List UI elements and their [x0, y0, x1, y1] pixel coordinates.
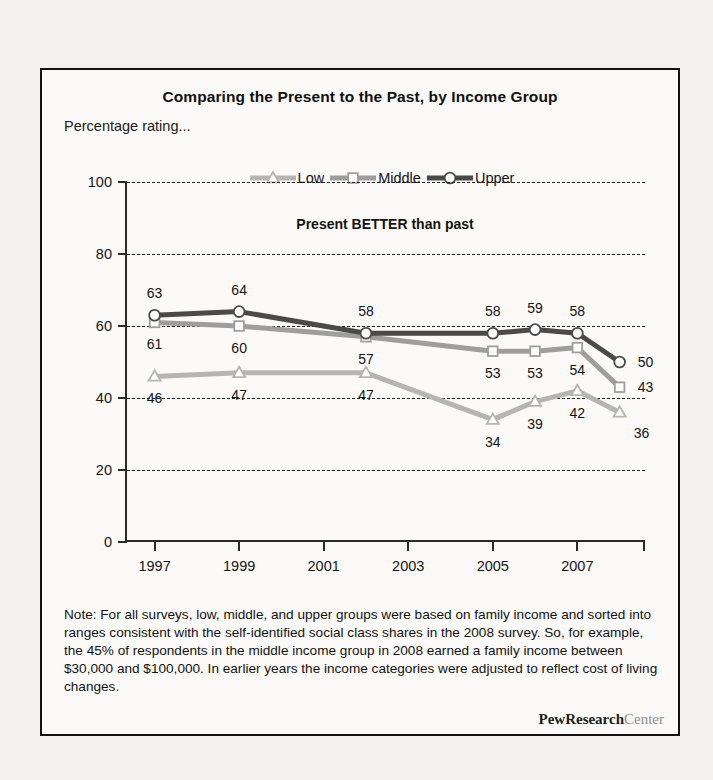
series-layer	[125, 182, 645, 542]
data-point-marker	[234, 321, 244, 331]
y-axis-label: 20	[96, 462, 112, 478]
x-axis-label: 1999	[223, 558, 255, 574]
chart-note: Note: For all surveys, low, middle, and …	[64, 606, 660, 696]
data-point-label: 61	[147, 336, 163, 352]
data-point-marker	[573, 343, 583, 353]
data-point-label: 57	[358, 351, 374, 367]
data-point-marker	[530, 324, 541, 335]
x-axis-tick	[238, 542, 240, 551]
data-point-label: 64	[231, 282, 247, 298]
x-axis-label: 2003	[392, 558, 424, 574]
brand-light: Center	[624, 711, 664, 727]
data-point-marker	[614, 357, 625, 368]
data-point-marker	[267, 172, 279, 182]
x-axis-label: 1997	[138, 558, 170, 574]
data-point-label: 36	[634, 425, 650, 441]
x-axis-tick	[323, 542, 325, 551]
y-axis-label: 40	[96, 390, 112, 406]
data-point-label: 54	[570, 362, 586, 378]
data-point-label: 39	[527, 416, 543, 432]
series-line	[155, 373, 620, 420]
x-axis-label: 2007	[561, 558, 593, 574]
brand-bold: PewResearch	[538, 711, 624, 727]
chart-subtitle: Percentage rating...	[64, 118, 191, 134]
x-axis-label: 2005	[477, 558, 509, 574]
data-point-label: 59	[527, 300, 543, 316]
data-point-label: 42	[570, 405, 586, 421]
data-point-label: 53	[527, 365, 543, 381]
data-point-label: 58	[485, 303, 501, 319]
data-point-label: 63	[147, 285, 163, 301]
y-axis-label: 0	[104, 534, 112, 550]
data-point-marker	[361, 328, 372, 339]
data-point-marker	[488, 346, 498, 356]
x-axis-tick	[576, 542, 578, 551]
data-point-label: 60	[231, 340, 247, 356]
data-point-marker	[234, 306, 245, 317]
data-point-marker	[572, 328, 583, 339]
data-point-marker	[530, 346, 540, 356]
data-point-label: 43	[638, 379, 654, 395]
data-point-label: 58	[358, 303, 374, 319]
plot-area: LowMiddleUpper 020406080100 199719992001…	[125, 182, 645, 542]
y-axis-label: 60	[96, 318, 112, 334]
x-axis-label: 2001	[308, 558, 340, 574]
data-point-marker	[487, 328, 498, 339]
y-axis-label: 100	[88, 174, 112, 190]
data-point-label: 47	[358, 387, 374, 403]
data-point-label: 34	[485, 434, 501, 450]
data-point-marker	[615, 382, 625, 392]
data-point-label: 46	[147, 390, 163, 406]
x-axis-tick-end	[643, 542, 645, 551]
data-point-label: 50	[638, 354, 654, 370]
page-title: Comparing the Present to the Past, by In…	[42, 88, 678, 106]
data-point-label: 58	[570, 303, 586, 319]
data-point-marker	[149, 310, 160, 321]
data-point-label: 47	[231, 387, 247, 403]
x-axis-tick	[407, 542, 409, 551]
chart-frame: Comparing the Present to the Past, by In…	[40, 68, 680, 736]
data-point-label: 53	[485, 365, 501, 381]
pew-research-center-logo: PewResearchCenter	[538, 711, 664, 728]
y-axis-label: 80	[96, 246, 112, 262]
x-axis-tick	[492, 542, 494, 551]
x-axis-tick	[154, 542, 156, 551]
